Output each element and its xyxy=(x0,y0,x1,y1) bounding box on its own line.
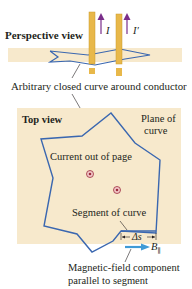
perspective-view-title: Perspective view xyxy=(5,29,83,41)
b-parallel-arrow xyxy=(125,244,150,251)
closed-curve-label: Arbitrary closed curve around conductor xyxy=(11,80,187,92)
diagram-canvas xyxy=(0,0,192,289)
field-component-label-line2: parallel to segment xyxy=(68,275,148,287)
current-dot-1 xyxy=(87,171,94,178)
b-parallel-label: B∥ xyxy=(151,241,161,257)
closed-curve-leader xyxy=(72,64,80,78)
plane-label-line1: Plane of xyxy=(141,113,176,125)
conductor-1-lower xyxy=(89,68,95,74)
current-dot-2 xyxy=(114,187,121,194)
current-arrow-2 xyxy=(124,13,131,34)
current-label-i-prime: I′ xyxy=(133,25,139,37)
current-out-label: Current out of page xyxy=(50,151,132,163)
conductor-2-lower xyxy=(116,68,122,76)
field-component-leader xyxy=(125,249,131,262)
top-view-title: Top view xyxy=(22,114,62,126)
current-arrow-1 xyxy=(98,13,105,34)
segment-label: Segment of curve xyxy=(72,207,146,219)
conductor-1 xyxy=(89,12,95,64)
conductor-2 xyxy=(116,14,122,64)
parallel-subscript: ∥ xyxy=(157,247,160,255)
current-label-i: I xyxy=(106,25,110,37)
delta-s-label: Δs xyxy=(132,231,142,243)
field-component-label-line1: Magnetic-field component xyxy=(68,262,180,274)
plane-label-line2: curve xyxy=(144,125,167,137)
